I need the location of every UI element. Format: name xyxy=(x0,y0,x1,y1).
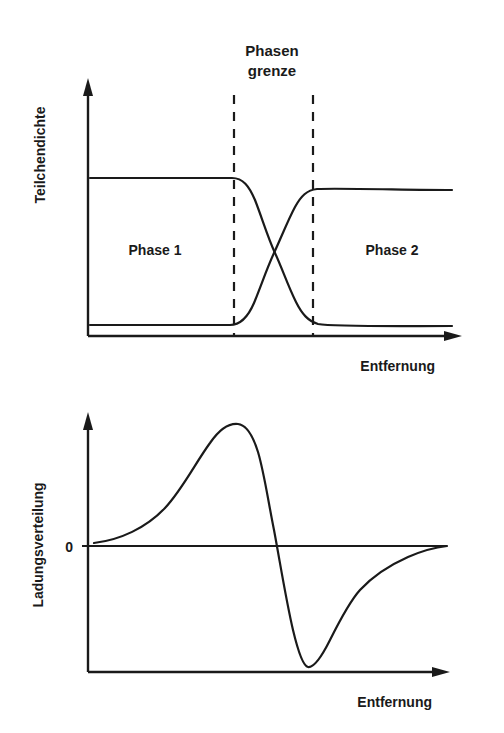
bottom-chart-y-axis-arrow-icon xyxy=(83,412,93,430)
bottom-chart-y-axis-label: Ladungsverteilung xyxy=(30,482,46,607)
top-chart-title-line1: Phasen xyxy=(245,42,298,59)
phase-boundary-figure: Phasen grenze Teilchendichte Phase 1 Pha… xyxy=(0,0,504,733)
top-chart-x-axis-arrow-icon xyxy=(444,331,462,341)
bottom-chart-zero-tick-label: 0 xyxy=(65,539,73,555)
region-label-phase-1: Phase 1 xyxy=(129,242,182,258)
top-chart-x-axis-title: Entfernung xyxy=(360,358,435,374)
top-chart-title-line2: grenze xyxy=(248,62,296,79)
bottom-chart: Ladungsverteilung 0 Entfernung xyxy=(30,412,450,710)
top-chart-y-axis-label: Teilchendichte xyxy=(32,106,48,203)
bottom-chart-x-axis-arrow-icon xyxy=(432,667,450,677)
top-chart: Phasen grenze Teilchendichte Phase 1 Pha… xyxy=(32,42,462,374)
top-chart-y-axis-arrow-icon xyxy=(83,78,93,96)
bottom-chart-x-axis-title: Entfernung xyxy=(357,694,432,710)
region-label-phase-2: Phase 2 xyxy=(366,242,419,258)
